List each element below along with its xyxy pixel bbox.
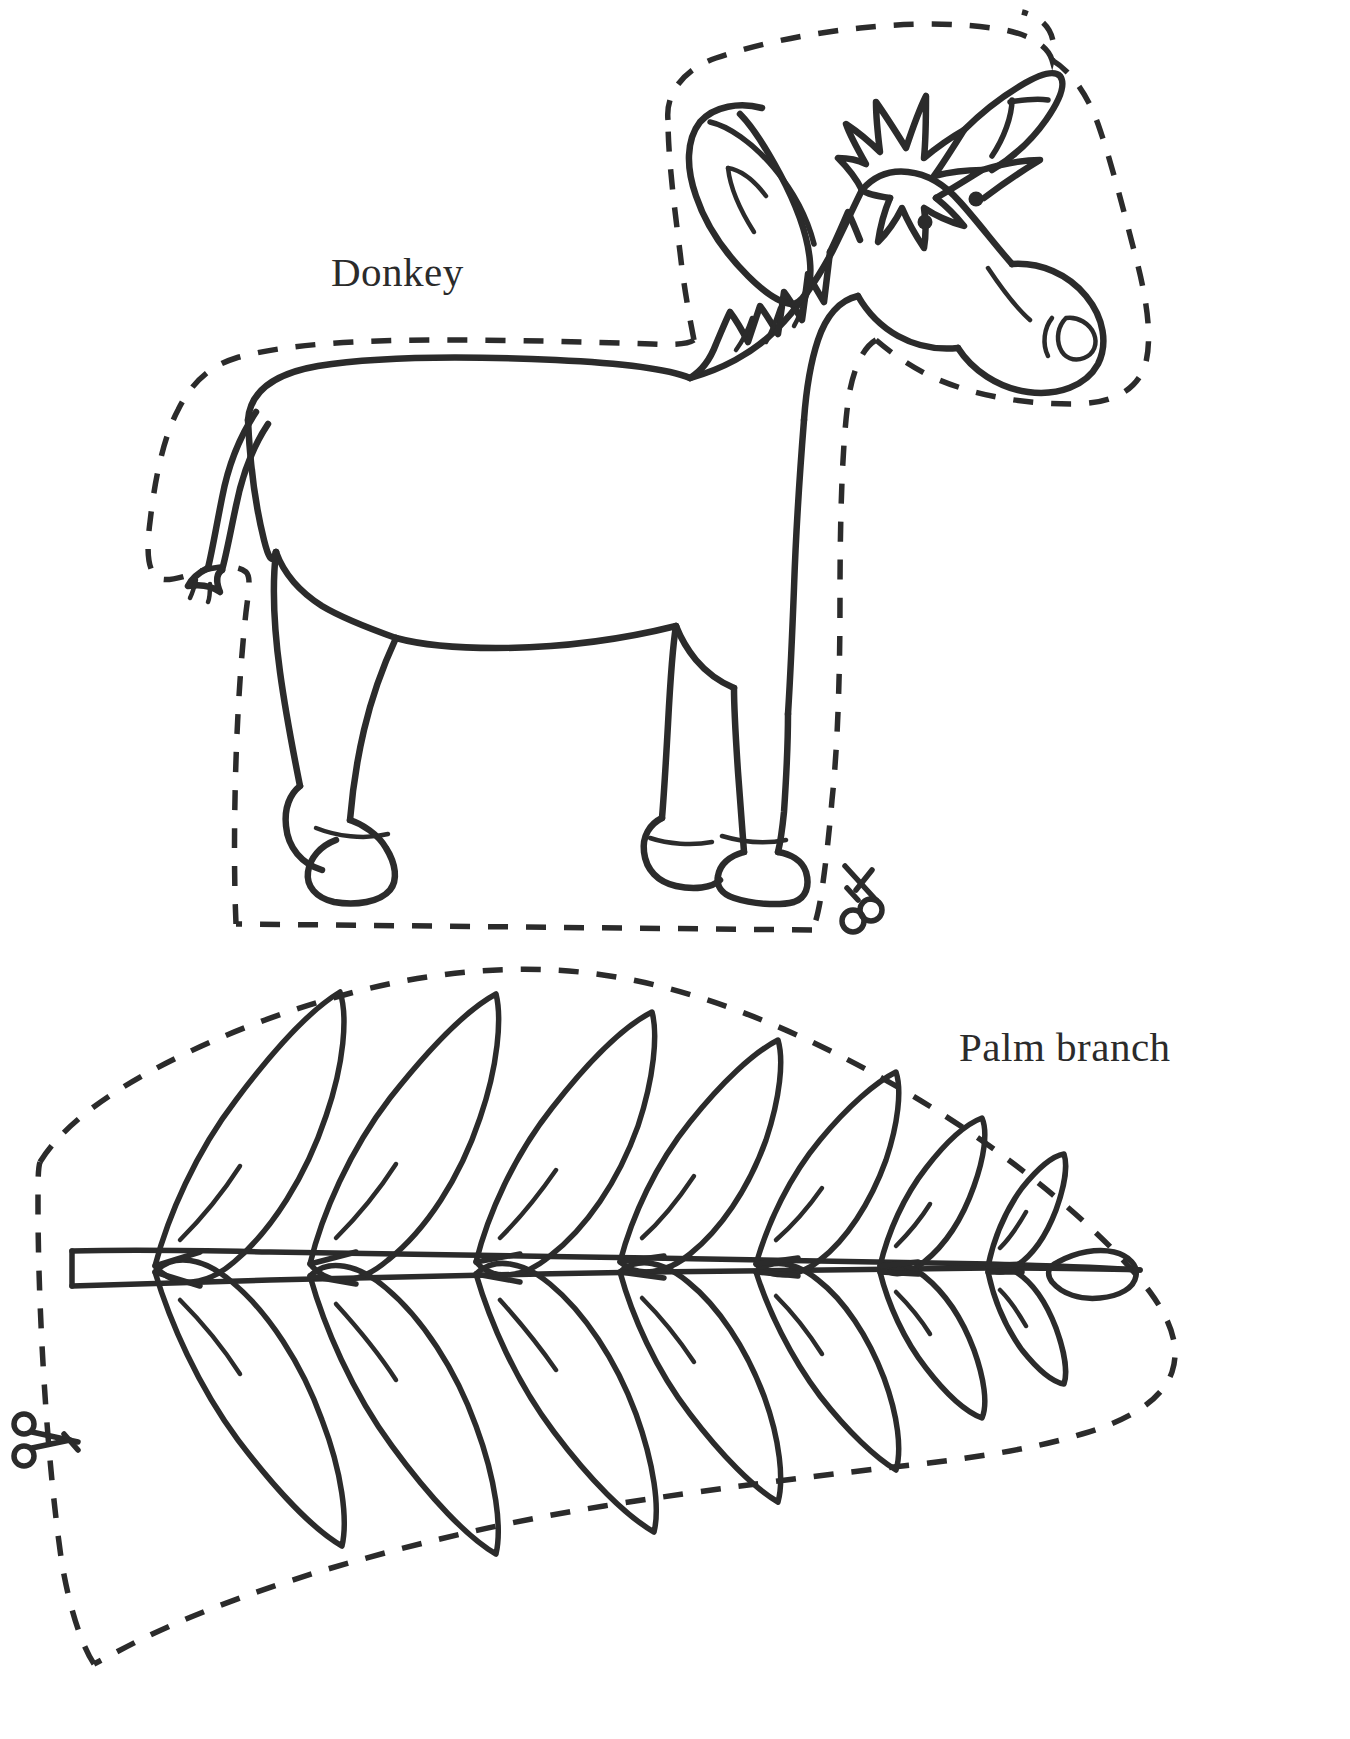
palm-branch-leaflets: [155, 992, 344, 1546]
donkey-scissors-wrap: [0, 0, 1350, 1739]
donkey-artwork: [0, 0, 1350, 1739]
palm-branch-node-connectors: [155, 1252, 1022, 1286]
palm-branch-leaflets-3: [476, 1012, 656, 1532]
palm-branch-leaflets-7: [988, 1154, 1066, 1384]
palm-branch-cut-outline: [38, 969, 1175, 1664]
craft-worksheet-page: Donkey Palm branch: [0, 0, 1350, 1739]
palm-branch-tip: [1049, 1250, 1137, 1298]
donkey-figure: [0, 0, 1350, 1739]
palm-branch-leaflets-5: [756, 1072, 899, 1470]
scissors-icon: [0, 0, 1350, 1739]
palm-branch-leaflets-6: [880, 1118, 985, 1418]
palm-branch-figure: [0, 0, 1350, 1739]
palm-branch-stem: [72, 1250, 1140, 1286]
scissors-icon-palm: [14, 1414, 78, 1466]
palm-branch-leaflets-2: [310, 994, 499, 1554]
donkey-eye-left: [918, 215, 933, 230]
scissors-icon-donkey: [842, 866, 882, 932]
palm-branch-leaflets-4: [620, 1040, 781, 1502]
donkey-body-outline: [188, 73, 1103, 904]
donkey-label: Donkey: [331, 248, 464, 296]
palm-branch-label: Palm branch: [959, 1023, 1171, 1071]
palm-branch-artwork: [0, 0, 1350, 1739]
donkey-cut-outline: [148, 12, 1148, 930]
donkey-eye-right: [969, 192, 984, 207]
scissors-icon: [0, 0, 1350, 1739]
palm-scissors-wrap: [0, 0, 1350, 1739]
